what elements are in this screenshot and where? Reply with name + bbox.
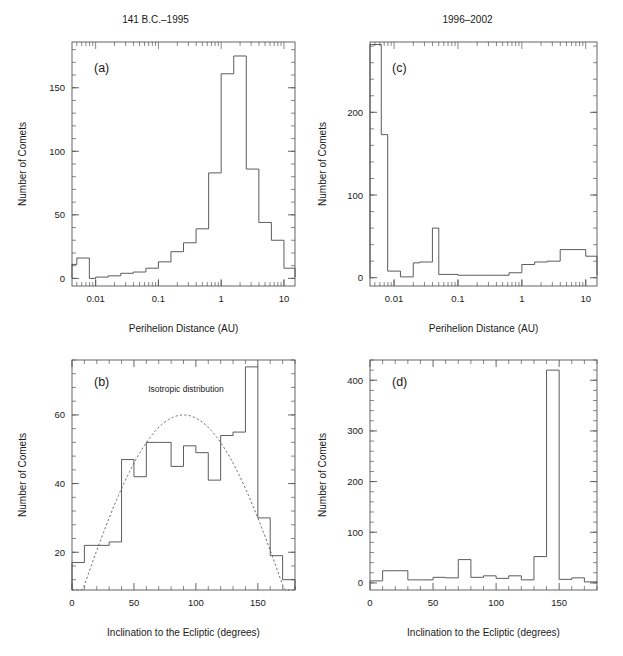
panel-c-letter: (c) (392, 61, 407, 75)
panel-b-inclination-historical: 050100150204060Isotropic distribution(b)… (0, 344, 311, 656)
svg-text:0.01: 0.01 (385, 293, 404, 304)
svg-text:0: 0 (69, 597, 74, 608)
svg-text:40: 40 (54, 478, 65, 489)
panel-a-title: 141 B.C.–1995 (0, 14, 311, 25)
svg-text:1: 1 (219, 293, 224, 304)
panel-a-xlabel: Perihelion Distance (AU) (129, 323, 239, 334)
svg-text:20: 20 (54, 547, 65, 558)
svg-text:1: 1 (519, 293, 524, 304)
panel-a-ylabel: Number of Comets (17, 122, 28, 206)
panel-b-letter: (b) (94, 375, 109, 389)
svg-text:400: 400 (347, 375, 363, 386)
svg-text:150: 150 (250, 597, 266, 608)
svg-text:50: 50 (54, 209, 65, 220)
svg-text:100: 100 (488, 597, 504, 608)
panel-d-inclination-soho: 0501001500100200300400(d)Inclination to … (312, 344, 623, 656)
svg-text:0.01: 0.01 (86, 293, 105, 304)
svg-text:50: 50 (129, 597, 140, 608)
panel-c-xlabel: Perihelion Distance (AU) (429, 323, 539, 334)
svg-text:100: 100 (347, 527, 363, 538)
panel-b-xlabel: Inclination to the Ecliptic (degrees) (107, 627, 260, 638)
panel-a-perihelion-historical: 141 B.C.–1995 0.010.1110050100150(a)Peri… (0, 14, 311, 344)
svg-text:0: 0 (60, 273, 65, 284)
panel-c-perihelion-soho: 1996–2002 0.010.11100100200(c)Perihelion… (312, 14, 623, 344)
panel-d-ylabel: Number of Comets (317, 433, 328, 517)
svg-text:100: 100 (347, 190, 363, 201)
svg-text:0.1: 0.1 (152, 293, 165, 304)
svg-text:0: 0 (367, 597, 372, 608)
panel-a-letter: (a) (94, 61, 109, 75)
svg-text:100: 100 (188, 597, 204, 608)
panel-d-letter: (d) (392, 375, 407, 389)
panel-c-ylabel: Number of Comets (317, 122, 328, 206)
panel-a-plot: 0.010.1110050100150(a)Perihelion Distanc… (0, 14, 311, 344)
svg-text:0: 0 (358, 577, 363, 588)
svg-text:50: 50 (428, 597, 439, 608)
figure-root: 141 B.C.–1995 0.010.1110050100150(a)Peri… (0, 0, 623, 656)
panel-b-ylabel: Number of Comets (17, 433, 28, 517)
svg-text:0.1: 0.1 (451, 293, 464, 304)
svg-text:0: 0 (358, 272, 363, 283)
panel-d-plot: 0501001500100200300400(d)Inclination to … (312, 344, 623, 656)
svg-text:60: 60 (54, 409, 65, 420)
svg-text:200: 200 (347, 107, 363, 118)
svg-text:300: 300 (347, 425, 363, 436)
svg-text:150: 150 (49, 82, 65, 93)
svg-text:10: 10 (580, 293, 591, 304)
svg-text:200: 200 (347, 476, 363, 487)
svg-text:100: 100 (49, 146, 65, 157)
panel-b-plot: 050100150204060Isotropic distribution(b)… (0, 344, 311, 656)
svg-text:150: 150 (551, 597, 567, 608)
isotropic-distribution-label: Isotropic distribution (148, 384, 224, 394)
panel-c-plot: 0.010.11100100200(c)Perihelion Distance … (312, 14, 623, 344)
svg-text:10: 10 (279, 293, 290, 304)
isotropic-distribution-curve (72, 415, 295, 590)
panel-d-xlabel: Inclination to the Ecliptic (degrees) (407, 627, 560, 638)
panel-c-title: 1996–2002 (312, 14, 623, 25)
